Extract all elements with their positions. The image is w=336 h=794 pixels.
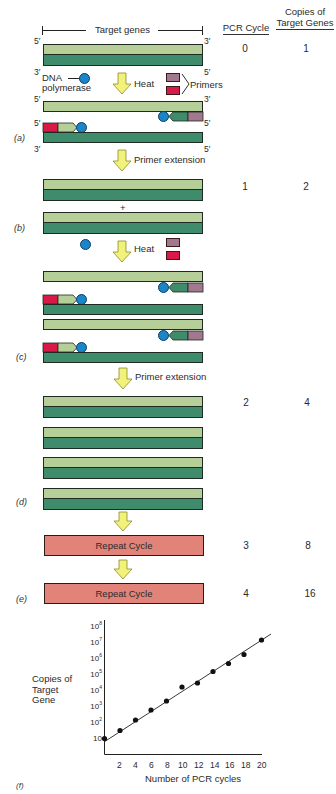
double-strand-dna-copy-1 xyxy=(43,396,203,418)
cycle-value-1: 1 xyxy=(230,181,260,192)
dark-strand xyxy=(43,222,203,234)
end-label-5prime: 5′ xyxy=(204,144,210,154)
primer-mauve-icon xyxy=(166,238,180,247)
panel-label-e: (e) xyxy=(16,594,27,604)
cycle-value-4: 4 xyxy=(231,588,261,599)
end-label-5prime: 5′ xyxy=(34,118,40,128)
chart-x-axis-label: Number of PCR cycles xyxy=(145,773,241,784)
heat-label: Heat xyxy=(134,78,154,89)
cycle-value-2: 2 xyxy=(231,397,261,408)
repeat-cycle-box-4: Repeat Cycle xyxy=(44,583,204,604)
copies-value-0: 1 xyxy=(291,43,321,54)
extending-primer-right xyxy=(169,112,203,121)
dna-polymerase-icon xyxy=(158,282,169,293)
double-strand-dna-original xyxy=(43,44,203,66)
repeat-cycle-box-3: Repeat Cycle xyxy=(44,535,204,556)
dna-polymerase-icon xyxy=(80,239,91,250)
copies-value-1: 2 xyxy=(291,181,321,192)
down-arrow-icon xyxy=(114,512,132,532)
panel-label-d: (d) xyxy=(16,497,27,507)
primers-bracket xyxy=(182,74,190,94)
x-tick-labels: 2 4 6 8 10 12 14 16 18 20 xyxy=(0,760,336,772)
column-header-copies: Copies of Target Genes xyxy=(275,7,335,28)
x-tick: 2 xyxy=(117,760,122,770)
dark-strand-separated xyxy=(43,352,203,363)
double-strand-dna-copy-2 xyxy=(43,212,203,234)
end-label-5prime: 5′ xyxy=(34,36,40,46)
extending-primer-right xyxy=(169,331,203,340)
end-label-3prime: 3′ xyxy=(34,67,40,77)
panel-label-c: (c) xyxy=(16,352,27,362)
pcr-cycle-header-text: PCR Cycle xyxy=(223,22,269,35)
dark-strand xyxy=(43,189,203,201)
repeat-cycle-label: Repeat Cycle xyxy=(95,540,152,551)
down-arrow-icon xyxy=(114,368,132,390)
copies-value-3: 8 xyxy=(293,540,323,551)
x-tick: 20 xyxy=(257,760,266,770)
column-header-pcr-cycle: PCR Cycle xyxy=(222,23,270,34)
growth-chart: Copies of Target Gene 108 107 106 105 10… xyxy=(0,610,336,794)
x-tick: 14 xyxy=(210,760,219,770)
down-arrow-icon xyxy=(113,150,131,172)
double-strand-dna-copy-3 xyxy=(43,457,203,479)
double-strand-dna-copy-1 xyxy=(43,179,203,201)
end-label-3prime: 3′ xyxy=(204,36,210,46)
primer-red-icon xyxy=(166,86,180,95)
down-arrow-icon xyxy=(113,241,131,263)
dna-polymerase-icon xyxy=(158,330,169,341)
down-arrow-icon xyxy=(114,560,132,580)
extending-primer-right xyxy=(169,283,203,292)
light-strand-separated xyxy=(43,271,203,282)
primer-red-icon xyxy=(166,251,180,260)
target-genes-label: Target genes xyxy=(95,24,150,35)
double-strand-dna-copy-2 xyxy=(43,427,203,449)
panel-label-f: (f) xyxy=(16,781,24,790)
x-tick: 6 xyxy=(149,760,154,770)
dark-strand xyxy=(43,437,203,449)
x-tick: 12 xyxy=(194,760,203,770)
end-label-5prime: 5′ xyxy=(34,94,40,104)
dark-strand-separated xyxy=(43,132,203,143)
primer-mauve-icon xyxy=(166,73,180,82)
double-strand-dna-copy-4 xyxy=(43,488,203,510)
extending-primer-left xyxy=(43,343,77,352)
x-tick: 4 xyxy=(133,760,138,770)
light-strand-separated xyxy=(43,319,203,330)
panel-label-a: (a) xyxy=(14,133,25,143)
heat-label: Heat xyxy=(134,243,154,254)
light-strand-separated xyxy=(43,101,203,112)
dark-strand xyxy=(43,54,203,66)
cycle-value-0: 0 xyxy=(230,43,260,54)
x-tick: 10 xyxy=(178,760,187,770)
end-label-3prime: 3′ xyxy=(34,144,40,154)
dark-strand xyxy=(43,498,203,510)
end-label-5prime: 5′ xyxy=(204,67,210,77)
down-arrow-icon xyxy=(113,73,131,95)
extending-primer-left xyxy=(43,123,77,132)
copies-value-2: 4 xyxy=(292,397,322,408)
primer-extension-label: Primer extension xyxy=(135,371,206,382)
dna-polymerase-icon xyxy=(158,111,169,122)
extending-primer-left xyxy=(43,295,77,304)
end-label-3prime: 3′ xyxy=(204,94,210,104)
x-tick: 18 xyxy=(241,760,250,770)
copies-value-4: 16 xyxy=(295,588,325,599)
x-tick: 8 xyxy=(165,760,170,770)
copies-header-line1: Copies of xyxy=(275,7,335,18)
primer-extension-label: Primer extension xyxy=(134,154,205,165)
dark-strand xyxy=(43,467,203,479)
panel-label-b: (b) xyxy=(14,223,25,233)
dna-polymerase-icon xyxy=(79,73,90,84)
repeat-cycle-label: Repeat Cycle xyxy=(95,588,152,599)
dna-polymerase-label-line2: polymerase xyxy=(42,83,91,93)
dark-strand-separated xyxy=(43,304,203,315)
copies-header-line2: Target Genes xyxy=(276,17,333,30)
cycle-value-3: 3 xyxy=(231,540,261,551)
dark-strand xyxy=(43,406,203,418)
end-label-5prime: 5′ xyxy=(204,118,210,128)
x-tick: 16 xyxy=(225,760,234,770)
primers-label: Primers xyxy=(190,79,223,90)
